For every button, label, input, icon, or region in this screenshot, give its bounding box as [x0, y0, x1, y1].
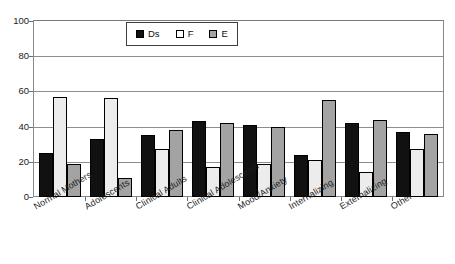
bar-group	[85, 21, 136, 197]
legend-swatch-f-icon	[176, 30, 184, 38]
bar-e	[424, 134, 438, 197]
bar-group	[290, 21, 341, 197]
bar-group	[187, 21, 238, 197]
legend-swatch-e-icon	[209, 30, 217, 38]
legend-entry-e: E	[209, 29, 227, 39]
legend-label: Ds	[148, 29, 160, 39]
bar-ds	[192, 121, 206, 197]
bar-chart: 100806040200 Normal MothersAdolescentsCl…	[0, 0, 455, 264]
legend-label: F	[188, 29, 194, 39]
y-tick-label-80: 80	[3, 51, 29, 61]
y-tick-label-60: 60	[3, 87, 29, 97]
legend-swatch-ds-icon	[136, 30, 144, 38]
legend-label: E	[221, 29, 227, 39]
y-tick-label-40: 40	[3, 122, 29, 132]
y-tick-label-20: 20	[3, 157, 29, 167]
bar-ds	[90, 139, 104, 197]
bar-group	[341, 21, 392, 197]
y-axis: 100806040200	[0, 20, 29, 197]
bar-group	[34, 21, 85, 197]
bar-ds	[396, 132, 410, 197]
legend-entry-ds: Ds	[136, 29, 160, 39]
chart-legend: DsFE	[126, 22, 238, 46]
y-tick-mark	[29, 197, 33, 198]
bar-ds	[345, 123, 359, 197]
bar-group	[392, 21, 443, 197]
bar-ds	[141, 135, 155, 197]
bar-group	[136, 21, 187, 197]
bar-f	[410, 149, 424, 197]
y-tick-label-100: 100	[3, 16, 29, 26]
legend-entry-f: F	[176, 29, 194, 39]
x-axis-labels: Normal MothersAdolescentsClinical Adults…	[0, 200, 455, 264]
